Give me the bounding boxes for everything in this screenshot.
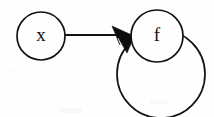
graph-diagram-canvas: x f: [0, 0, 214, 117]
node-x-label: x: [36, 24, 46, 45]
graph-diagram-svg: x f: [0, 0, 214, 117]
node-f-label: f: [154, 24, 161, 45]
